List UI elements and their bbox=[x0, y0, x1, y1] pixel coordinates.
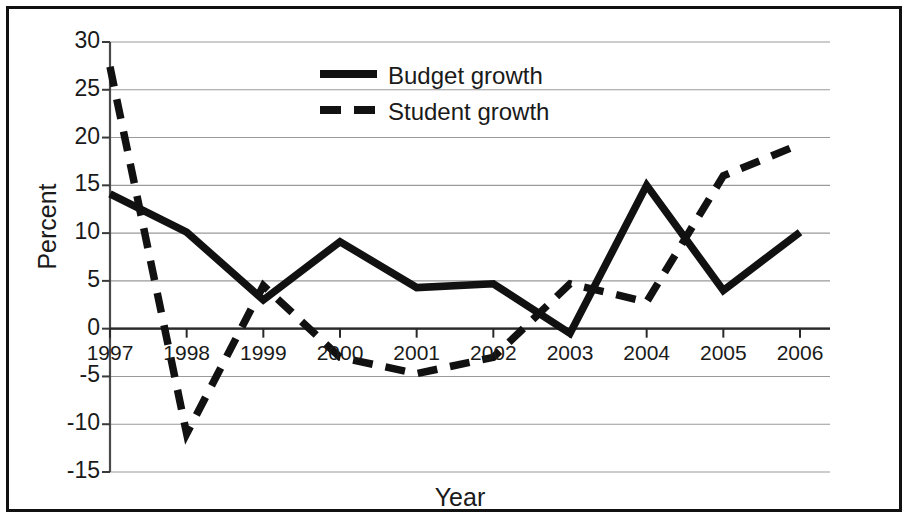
y-tick-label-20: 20 bbox=[14, 123, 100, 150]
series-line-budget-growth bbox=[110, 185, 800, 333]
legend-label-budget-growth: Budget growth bbox=[388, 62, 543, 90]
legend-label-student-growth: Student growth bbox=[388, 98, 549, 126]
y-tick-label-5: 5 bbox=[14, 266, 100, 293]
chart-figure: Percent Year 302520151050-5-10-15 199719… bbox=[0, 0, 910, 520]
y-tick-label-25: 25 bbox=[14, 75, 100, 102]
x-tick-label-2006: 2006 bbox=[755, 341, 845, 365]
y-tick-label-10: 10 bbox=[14, 218, 100, 245]
y-tick-label-15: 15 bbox=[14, 170, 100, 197]
y-tick-label--5: -5 bbox=[14, 361, 100, 388]
y-tick-label--15: -15 bbox=[14, 457, 100, 484]
y-tick-label-30: 30 bbox=[14, 27, 100, 54]
x-axis-title: Year bbox=[110, 483, 810, 512]
y-tick-label-0: 0 bbox=[14, 314, 100, 341]
y-tick-label--10: -10 bbox=[14, 409, 100, 436]
